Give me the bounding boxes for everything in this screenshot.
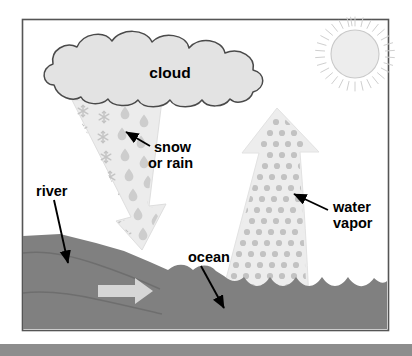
water-vapor-label-line2: vapor: [333, 215, 373, 231]
cloud-label: cloud: [149, 64, 190, 81]
snow-or-rain-label-line2: or rain: [148, 155, 193, 171]
bottom-page-bar: [0, 344, 412, 356]
snow-or-rain-label-line1: snow: [154, 139, 192, 155]
river-label: river: [36, 183, 68, 199]
water-vapor-label-line1: water: [332, 199, 371, 215]
ocean-label: ocean: [188, 249, 230, 265]
water-cycle-diagram-page: cloud snow or rain water vapor river oce…: [0, 0, 412, 356]
water-cycle-diagram: cloud snow or rain water vapor river oce…: [0, 0, 412, 356]
